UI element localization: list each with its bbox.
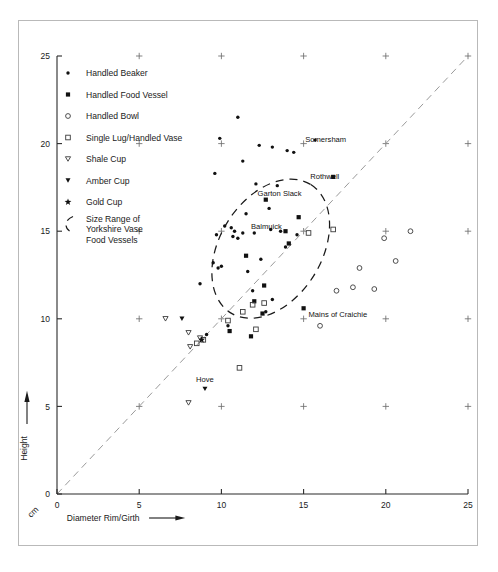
dot-glyph: [216, 266, 219, 269]
square-glyph: [262, 283, 266, 287]
point-annotation: Mains of Craichie: [309, 310, 368, 319]
grid-cross: [465, 316, 471, 322]
data-point: [228, 329, 232, 333]
data-point: [259, 258, 262, 261]
data-point: [271, 298, 274, 301]
x-tick-label: 10: [217, 500, 227, 510]
open-triangle-glyph: [188, 345, 193, 350]
open-square-glyph: [226, 318, 231, 323]
grid-cross: [300, 403, 306, 409]
data-point: [287, 241, 291, 245]
data-point: [254, 327, 259, 332]
dot-glyph: [218, 137, 221, 140]
data-point: [251, 289, 254, 292]
legend-item: Gold Cup: [65, 197, 123, 207]
x-tick-label: 5: [137, 500, 142, 510]
open-square-glyph: [237, 366, 242, 371]
x-tick-label: 15: [299, 500, 309, 510]
data-point: [188, 345, 193, 350]
data-point: [292, 151, 295, 154]
legend-marker-star: [65, 198, 72, 205]
open-triangle-glyph: [163, 317, 168, 322]
data-point: [186, 331, 191, 336]
legend-marker-filled-triangle-down: [66, 178, 71, 182]
data-point: [283, 229, 287, 233]
data-point: [202, 387, 207, 391]
grid-cross: [300, 316, 306, 322]
legend-marker-open-triangle-down: [65, 157, 70, 162]
data-point: [331, 227, 336, 232]
grid-cross: [383, 316, 389, 322]
annotation-layer: SomershamRothwellGarton SlackBalmuickMai…: [196, 135, 367, 384]
grid-cross: [383, 53, 389, 59]
dot-glyph: [205, 333, 208, 336]
dot-glyph: [276, 184, 279, 187]
legend-label: Handled Food Vessel: [86, 90, 168, 100]
open-square-glyph: [240, 309, 245, 314]
square-glyph: [264, 198, 268, 202]
legend-item: Size Range ofYorkshire VaseFood Vessels: [66, 214, 143, 245]
dot-glyph: [254, 182, 257, 185]
open-square-glyph: [262, 301, 267, 306]
dot-glyph: [251, 289, 254, 292]
grid-cross: [465, 140, 471, 146]
data-point: [253, 231, 256, 234]
dot-glyph: [244, 212, 247, 215]
data-point: [306, 231, 311, 236]
legend-label: Gold Cup: [86, 197, 123, 207]
data-point: [236, 116, 239, 119]
data-point: [241, 231, 244, 234]
square-glyph: [297, 215, 301, 219]
legend-item: Handled Food Vessel: [66, 90, 168, 100]
data-point: [163, 317, 168, 322]
data-point: [318, 323, 323, 328]
data-point: [258, 144, 261, 147]
scatter-figure: 05101520250510152025Diameter Rim/GirthHe…: [0, 0, 498, 572]
data-point: [285, 149, 288, 152]
dot-glyph: [223, 224, 226, 227]
units-label: cm: [25, 504, 40, 519]
square-glyph: [302, 306, 306, 310]
circle-glyph: [408, 229, 413, 234]
dot-glyph: [292, 151, 295, 154]
filled-triangle-glyph: [179, 317, 184, 321]
data-point: [382, 236, 387, 241]
legend-item: Amber Cup: [66, 176, 130, 186]
legend-label: Amber Cup: [86, 176, 130, 186]
dot-glyph: [220, 265, 223, 268]
grid-cross: [218, 53, 224, 59]
point-annotation: Balmuick: [251, 222, 282, 231]
data-point: [186, 401, 191, 406]
x-axis-title: Diameter Rim/Girth: [67, 513, 140, 523]
data-point: [230, 226, 233, 229]
circle-glyph: [372, 287, 377, 292]
legend-item: Handled Bowl: [66, 111, 140, 121]
point-annotation: Somersham: [305, 135, 346, 144]
circle-glyph: [318, 323, 323, 328]
x-tick-label: 0: [55, 500, 60, 510]
data-point: [393, 259, 398, 264]
data-points-layer: [163, 116, 413, 406]
point-annotation: Garton Slack: [258, 189, 302, 198]
data-point: [215, 233, 218, 236]
legend-label: Single Lug/Handled Vase: [86, 133, 183, 143]
data-point: [211, 261, 214, 264]
open-triangle-glyph: [186, 401, 191, 406]
circle-glyph: [382, 236, 387, 241]
legend-marker-open-circle: [66, 114, 71, 119]
y-tick-label: 10: [41, 314, 51, 324]
y-tick-label: 5: [45, 402, 50, 412]
square-glyph: [244, 254, 248, 258]
filled-triangle-glyph: [66, 178, 71, 182]
legend-label: Handled Bowl: [86, 111, 139, 121]
data-point: [295, 233, 298, 236]
open-triangle-glyph: [186, 331, 191, 336]
dot-glyph: [259, 258, 262, 261]
legend-label: Food Vessels: [86, 235, 138, 245]
square-glyph: [66, 92, 70, 96]
open-triangle-glyph: [65, 157, 70, 162]
legend-marker-filled-square: [66, 92, 70, 96]
y-axis-title: Height: [19, 436, 29, 461]
legend-label: Shale Cup: [86, 154, 126, 164]
dot-glyph: [213, 172, 216, 175]
